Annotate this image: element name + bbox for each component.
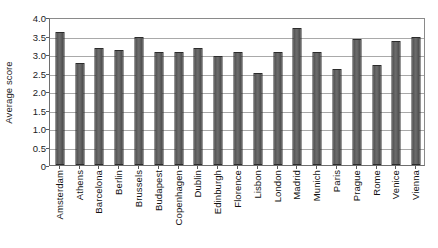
- x-tick-label-text: Edinburgh: [212, 170, 223, 214]
- bar: [135, 37, 144, 165]
- x-tick-label-text: Lisbon: [251, 170, 262, 199]
- x-tick-label-text: Munich: [311, 170, 322, 201]
- x-tick-label: Lisbon: [247, 170, 267, 246]
- bar: [95, 48, 104, 165]
- x-tick-label: Barcelona: [89, 170, 109, 246]
- bar: [194, 48, 203, 165]
- x-tick-mark: [59, 166, 60, 169]
- x-tick-label: Berlin: [108, 170, 128, 246]
- bar-chart-figure: Average score 00.51.01.52.02.53.03.54.0 …: [0, 0, 438, 248]
- x-tick-label: Vienna: [405, 170, 425, 246]
- bar-slot: [149, 19, 169, 165]
- y-tick-label: 1.5: [5, 105, 49, 116]
- x-tick-label-text: Brussels: [133, 170, 144, 207]
- bar: [115, 50, 124, 165]
- bar: [233, 52, 242, 165]
- x-tick-mark: [178, 166, 179, 169]
- x-tick-mark: [158, 166, 159, 169]
- bar-slot: [327, 19, 347, 165]
- x-tick-label-text: Paris: [330, 170, 341, 192]
- x-tick-label-text: Prague: [350, 170, 361, 201]
- x-tick-mark: [296, 166, 297, 169]
- x-tick-label: Copenhagen: [168, 170, 188, 246]
- bar-slot: [50, 19, 70, 165]
- x-tick-mark: [356, 166, 357, 169]
- x-tick-mark: [98, 166, 99, 169]
- x-tick-label-text: Rome: [370, 170, 381, 196]
- bar-slot: [347, 19, 367, 165]
- x-tick-label-text: Madrid: [291, 170, 302, 200]
- y-tick-label: 2.5: [5, 68, 49, 79]
- bar: [313, 52, 322, 165]
- x-tick-label: Madrid: [286, 170, 306, 246]
- x-tick-label-text: Copenhagen: [172, 170, 183, 225]
- bar: [392, 41, 401, 165]
- x-tick-mark: [257, 166, 258, 169]
- x-tick-label: Florence: [227, 170, 247, 246]
- y-tick-label: 0.5: [5, 142, 49, 153]
- x-tick-label: Athens: [69, 170, 89, 246]
- bar: [412, 37, 421, 165]
- y-tick-label: 1.0: [5, 124, 49, 135]
- x-tick-mark: [79, 166, 80, 169]
- bar: [372, 65, 381, 165]
- bar-slot: [386, 19, 406, 165]
- bar-slot: [268, 19, 288, 165]
- x-tick-label: Amsterdam: [49, 170, 69, 246]
- bar: [75, 63, 84, 165]
- x-tick-label-text: Vienna: [410, 170, 421, 200]
- bar-slot: [367, 19, 387, 165]
- x-tick-label: Edinburgh: [207, 170, 227, 246]
- y-axis-ticks: 00.51.01.52.02.53.03.54.0: [0, 18, 49, 166]
- x-tick-mark: [336, 166, 337, 169]
- bar: [352, 39, 361, 165]
- x-tick-label: Prague: [346, 170, 366, 246]
- x-tick-label: Paris: [326, 170, 346, 246]
- x-tick-mark: [217, 166, 218, 169]
- y-tick-label: 2.0: [5, 87, 49, 98]
- x-tick-label: Rome: [366, 170, 386, 246]
- bar-slot: [129, 19, 149, 165]
- x-tick-label: Brussels: [128, 170, 148, 246]
- x-tick-label-text: Amsterdam: [53, 170, 64, 219]
- x-axis-labels: AmsterdamAthensBarcelonaBerlinBrusselsBu…: [49, 170, 425, 246]
- x-tick-label-text: Budapest: [152, 170, 163, 211]
- x-tick-label: Venice: [385, 170, 405, 246]
- bar-slot: [70, 19, 90, 165]
- bar-slot: [307, 19, 327, 165]
- x-tick-mark: [376, 166, 377, 169]
- y-tick-label: 4.0: [5, 13, 49, 24]
- bar: [332, 69, 341, 165]
- x-tick-mark: [118, 166, 119, 169]
- x-tick-label-text: Barcelona: [93, 170, 104, 214]
- bar-slot: [189, 19, 209, 165]
- bar: [253, 73, 262, 166]
- bar: [214, 56, 223, 165]
- x-tick-label-text: Dublin: [192, 170, 203, 198]
- bar-slot: [90, 19, 110, 165]
- y-tick-label: 3.0: [5, 50, 49, 61]
- x-tick-label: London: [267, 170, 287, 246]
- x-tick-mark: [277, 166, 278, 169]
- x-tick-label-text: Athens: [73, 170, 84, 200]
- bar: [55, 32, 64, 165]
- y-tick-label: 0: [5, 161, 49, 172]
- x-tick-label-text: Florence: [231, 170, 242, 208]
- bar-slot: [109, 19, 129, 165]
- x-tick-mark: [237, 166, 238, 169]
- x-tick-mark: [395, 166, 396, 169]
- x-tick-label-text: Berlin: [113, 170, 124, 195]
- bar-slot: [248, 19, 268, 165]
- x-tick-mark: [138, 166, 139, 169]
- x-tick-label-text: Venice: [390, 170, 401, 199]
- x-tick-mark: [197, 166, 198, 169]
- bar-slot: [228, 19, 248, 165]
- bar: [154, 52, 163, 165]
- x-tick-mark: [316, 166, 317, 169]
- x-tick-label: Munich: [306, 170, 326, 246]
- x-tick-label: Dublin: [188, 170, 208, 246]
- x-tick-mark: [415, 166, 416, 169]
- bar: [293, 28, 302, 165]
- bar-slot: [169, 19, 189, 165]
- bar-slot: [406, 19, 426, 165]
